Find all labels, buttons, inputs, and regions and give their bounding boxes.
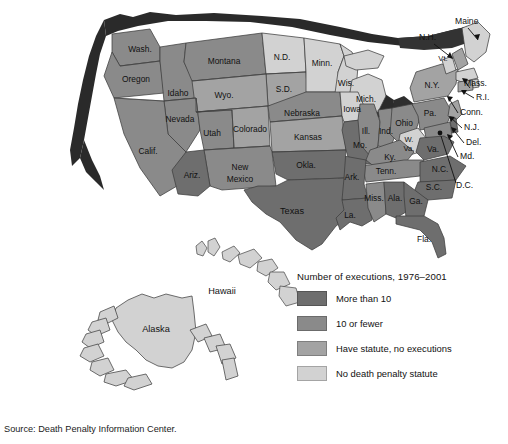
label-north-carolina: N.C.	[432, 164, 449, 174]
label-new-mexico-line1: New	[232, 162, 250, 172]
label-hawaii: Hawaii	[208, 286, 236, 296]
callout-nj: N.J.	[464, 122, 479, 132]
label-georgia: Ga.	[409, 196, 423, 206]
state-alaska	[80, 294, 238, 390]
label-new-york: N.Y.	[424, 80, 439, 90]
label-alaska: Alaska	[142, 324, 170, 334]
label-south-dakota: S.D.	[276, 84, 292, 94]
label-indiana: Ind.	[379, 126, 393, 136]
label-missouri: Mo.	[353, 140, 367, 150]
callout-maine: Maine	[455, 16, 479, 26]
legend-label-no-statute: No death penalty statute	[336, 369, 438, 378]
label-oregon: Oregon	[122, 74, 150, 84]
label-nevada: Nevada	[166, 114, 195, 124]
label-washington: Wash.	[128, 44, 151, 54]
legend-item-more-than-10: More than 10	[297, 291, 502, 306]
label-idaho: Idaho	[168, 88, 189, 98]
label-new-mexico-line2: Mexico	[227, 174, 254, 184]
callout-dc: D.C.	[456, 180, 473, 190]
label-kentucky: Ky.	[384, 152, 395, 162]
label-virginia: Va.	[427, 144, 439, 154]
label-colorado: Colorado	[233, 124, 267, 134]
label-nebraska: Nebraska	[284, 108, 320, 118]
callout-conn: Conn.	[460, 107, 483, 117]
label-michigan: Mich.	[356, 94, 376, 104]
label-ohio: Ohio	[395, 118, 413, 128]
callout-ri: R.I.	[476, 92, 489, 102]
legend-item-no-statute: No death penalty statute	[297, 366, 502, 381]
label-montana: Montana	[208, 56, 241, 66]
legend-item-statute-no-executions: Have statute, no executions	[297, 341, 502, 356]
label-illinois: Ill.	[362, 126, 370, 136]
legend-label-statute-no-executions: Have statute, no executions	[336, 344, 452, 353]
label-wyoming: Wyo.	[214, 90, 233, 100]
label-california: Calif.	[138, 146, 157, 156]
legend-swatch-ten-or-fewer	[297, 316, 327, 331]
label-florida: Fla.	[417, 234, 431, 244]
label-west-virginia-line2: Va.	[404, 144, 415, 153]
executions-map-figure: Wash. Oregon Idaho Montana N.D. Minn. Wi…	[0, 0, 508, 444]
legend-swatch-no-statute	[297, 366, 327, 381]
callout-md: Md.	[460, 151, 474, 161]
label-pennsylvania: Pa.	[424, 108, 437, 118]
label-south-carolina: S.C.	[426, 182, 442, 192]
label-vermont: Vt.	[438, 54, 447, 63]
label-arkansas: Ark.	[345, 172, 360, 182]
label-kansas: Kansas	[294, 132, 322, 142]
label-north-dakota: N.D.	[274, 52, 291, 62]
callout-nh: N.H.	[419, 32, 436, 42]
label-texas: Texas	[280, 206, 304, 216]
legend-swatch-statute-no-executions	[297, 341, 327, 356]
legend-item-ten-or-fewer: 10 or fewer	[297, 316, 502, 331]
label-west-virginia-line1: W.	[405, 135, 414, 144]
label-alabama: Ala.	[388, 193, 402, 203]
legend-label-more-than-10: More than 10	[336, 294, 391, 303]
dc-marker	[438, 131, 443, 136]
legend-swatch-more-than-10	[297, 291, 327, 306]
label-oklahoma: Okla.	[296, 160, 316, 170]
legend-title: Number of executions, 1976–2001	[297, 271, 502, 282]
label-arizona: Ariz.	[184, 170, 201, 180]
callout-del: Del.	[466, 137, 481, 147]
legend-label-ten-or-fewer: 10 or fewer	[336, 319, 383, 328]
state-maine	[462, 22, 490, 62]
label-wisconsin: Wis.	[338, 78, 354, 88]
label-iowa: Iowa	[343, 104, 361, 114]
label-mississippi: Miss.	[364, 193, 384, 203]
label-utah: Utah	[203, 128, 221, 138]
label-minnesota: Minn.	[312, 58, 332, 68]
label-tennessee: Tenn.	[376, 166, 397, 176]
map-legend: Number of executions, 1976–2001 More tha…	[297, 271, 502, 391]
source-note: Source: Death Penalty Information Center…	[4, 424, 177, 434]
label-louisiana: La.	[344, 210, 356, 220]
